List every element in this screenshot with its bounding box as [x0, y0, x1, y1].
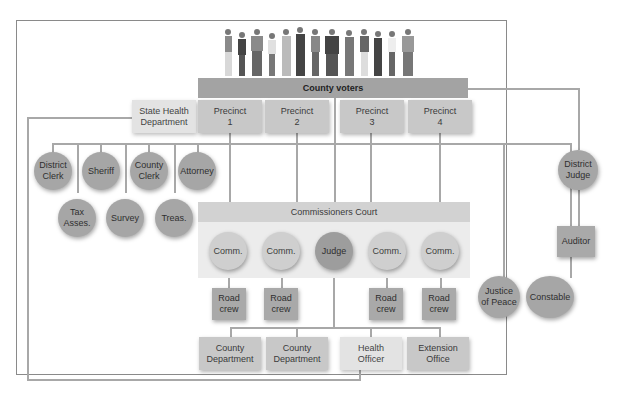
survey-node: Survey	[106, 199, 144, 237]
precinct-1: Precinct1	[198, 100, 262, 133]
justice-of-peace-node: Justiceof Peace	[478, 276, 520, 318]
precinct-4: Precinct4	[408, 100, 472, 133]
attorney-node: Attorney	[178, 152, 216, 190]
district-clerk-node: DistrictClerk	[34, 152, 72, 190]
people-icon	[220, 26, 445, 78]
extension-office: ExtensionOffice	[407, 337, 469, 370]
commissioner-2-node: Comm.	[262, 232, 300, 270]
health-officer: HealthOfficer	[340, 337, 402, 370]
road-crew-3: Roadcrew	[369, 288, 403, 320]
voters-illustration	[220, 26, 445, 78]
state-health-department: State HealthDepartment	[132, 100, 196, 133]
county-voters-bar: County voters	[198, 78, 468, 98]
commissioner-1-node: Comm.	[209, 232, 247, 270]
county-department-2: CountyDepartment	[266, 337, 328, 370]
county-voters-label: County voters	[303, 83, 364, 93]
road-crew-1: Roadcrew	[212, 288, 246, 320]
commissioner-4-node: Comm.	[421, 232, 459, 270]
county-judge-node: Judge	[315, 232, 353, 270]
sheriff-node: Sheriff	[82, 152, 120, 190]
commissioners-court-bar: Commissioners Court	[198, 202, 470, 222]
treasurer-node: Treas.	[155, 199, 193, 237]
tax-assessor-node: TaxAsses.	[58, 199, 96, 237]
precinct-2: Precinct2	[265, 100, 329, 133]
precinct-3: Precinct3	[340, 100, 404, 133]
auditor-box: Auditor	[557, 226, 595, 257]
road-crew-4: Roadcrew	[422, 288, 456, 320]
commissioner-3-node: Comm.	[368, 232, 406, 270]
county-clerk-node: CountyClerk	[130, 152, 168, 190]
district-judge-node: DistrictJudge	[558, 150, 598, 190]
road-crew-2: Roadcrew	[264, 288, 298, 320]
county-department-1: CountyDepartment	[199, 337, 261, 370]
constable-node: Constable	[526, 276, 574, 318]
